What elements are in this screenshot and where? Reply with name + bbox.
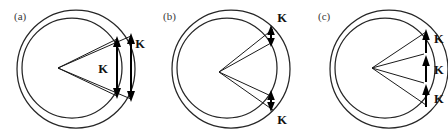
panel-c-inner-circle (335, 18, 435, 118)
panel-c-k-bottom-label: K (434, 92, 444, 106)
scattering-geometry-figure: (a) K K (b) (0, 0, 448, 135)
panel-b-k-top-head-down (267, 38, 275, 47)
panel-a-ray-3 (58, 36, 131, 68)
panel-b-rays (219, 29, 273, 110)
panel-a-k-arrow-outer (127, 33, 135, 102)
panel-b-ray-3 (219, 72, 271, 96)
panel-a-k-outer-head-up (127, 33, 135, 44)
panel-c-outer-circle (330, 10, 448, 128)
panel-b-k-bottom-label: K (277, 113, 287, 127)
panel-b-k-arrow-bottom (267, 90, 275, 112)
panel-b: (b) K K (163, 10, 290, 128)
panel-b-k-top-label: K (277, 11, 287, 25)
panel-c-k-arrow-top (422, 29, 430, 53)
panel-c-label: (c) (318, 10, 331, 23)
panel-a: (a) K K (14, 10, 145, 128)
panel-c-k-top-head-up (422, 29, 430, 40)
panel-c-k-mid-label: K (434, 63, 444, 77)
panel-b-ray-2 (219, 29, 273, 72)
panel-c-ray-2 (372, 54, 424, 68)
panel-c: (c) K K K (318, 10, 448, 128)
panel-a-k-inner-head-down (113, 88, 121, 99)
panel-c-k-top-label: K (434, 32, 444, 46)
panel-a-label: (a) (14, 10, 27, 23)
panel-b-outer-circle (172, 10, 290, 128)
panel-c-k-arrow-mid (422, 55, 430, 82)
panel-b-label: (b) (163, 10, 176, 23)
panel-c-ray-1 (372, 32, 426, 68)
panel-b-k-top-head-up (267, 25, 275, 35)
figure-canvas: (a) K K (b) (0, 0, 448, 135)
panel-c-ray-3 (372, 68, 424, 83)
panel-a-k-inner-label: K (98, 62, 108, 76)
panel-c-k-bottom-head-up (422, 84, 430, 95)
panel-b-ray-4 (219, 72, 273, 110)
panel-a-k-arrow-inner (113, 36, 121, 99)
panel-a-k-outer-label: K (135, 37, 145, 51)
panel-c-ray-4 (372, 68, 426, 105)
panel-c-rays (372, 32, 426, 105)
panel-b-ray-1 (219, 43, 271, 72)
panel-c-k-mid-head-up (422, 55, 430, 66)
